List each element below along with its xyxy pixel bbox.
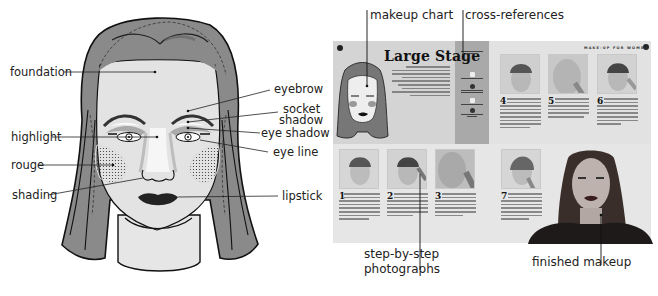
label-lipstick: lipstick xyxy=(282,190,322,202)
callout-cross-references: cross-references xyxy=(465,9,564,21)
callout-photographs: photographs xyxy=(364,263,440,275)
label-shadow: shadow xyxy=(279,114,323,126)
callout-finished-makeup: finished makeup xyxy=(532,256,631,268)
label-eye-line: eye line xyxy=(273,146,318,158)
callout-makeup-chart: makeup chart xyxy=(370,9,453,21)
callout-step-by-step: step-by-step xyxy=(364,248,439,260)
label-highlight: highlight xyxy=(11,131,62,143)
label-eye-shadow: eye shadow xyxy=(261,127,330,139)
label-rouge: rouge xyxy=(11,159,44,171)
label-foundation: foundation xyxy=(10,66,72,78)
label-eyebrow: eyebrow xyxy=(274,83,323,95)
label-shading: shading xyxy=(12,189,57,201)
